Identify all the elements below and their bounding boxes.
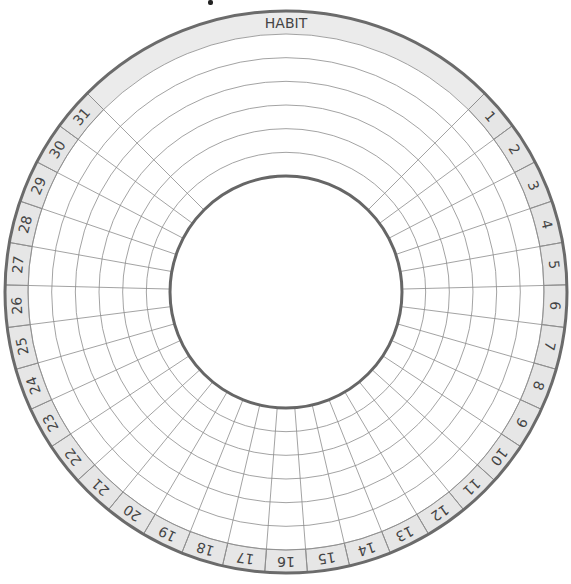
habit-cell[interactable] <box>425 288 450 313</box>
day-label: 17 <box>235 549 255 568</box>
habit-title: HABIT <box>265 15 308 31</box>
habit-cell[interactable] <box>447 259 473 288</box>
habit-cell[interactable] <box>75 255 102 287</box>
habit-cell[interactable] <box>28 246 55 286</box>
habit-cell[interactable] <box>146 288 171 309</box>
habit-cell[interactable] <box>123 263 149 288</box>
habit-cell[interactable] <box>401 288 426 309</box>
habit-cell[interactable] <box>275 408 296 432</box>
habit-cell[interactable] <box>266 526 305 550</box>
habit-cell[interactable] <box>99 259 125 288</box>
habit-cell[interactable] <box>274 431 299 455</box>
habit-cell[interactable] <box>272 455 300 479</box>
habit-cell[interactable] <box>244 451 274 478</box>
habit-cell[interactable] <box>493 251 520 287</box>
habit-cell[interactable] <box>472 287 497 319</box>
inner-ring <box>170 176 402 408</box>
habit-cell[interactable] <box>268 502 304 526</box>
habit-cell[interactable] <box>238 474 271 502</box>
habit-cell[interactable] <box>99 287 124 315</box>
habit-cell[interactable] <box>448 287 473 315</box>
day-label: 5 <box>546 259 563 269</box>
habit-cell[interactable] <box>28 285 54 324</box>
habit-cell[interactable] <box>270 478 302 502</box>
habit-cell[interactable] <box>518 285 544 324</box>
habit-cell[interactable] <box>52 286 77 322</box>
habit-cell[interactable] <box>52 251 79 287</box>
day-label: 26 <box>8 296 25 315</box>
habit-cell[interactable] <box>470 255 497 287</box>
habit-cell[interactable] <box>75 287 100 319</box>
day-label: 15 <box>317 549 337 568</box>
habit-cell[interactable] <box>517 246 544 286</box>
habit-tracker-wheel: 1234567891011121314151617181920212223242… <box>0 0 571 584</box>
habit-cell[interactable] <box>495 286 520 322</box>
habit-cell[interactable] <box>123 288 148 313</box>
day-label: 6 <box>547 301 563 311</box>
habit-cell[interactable] <box>298 451 328 478</box>
day-label: 16 <box>277 554 295 570</box>
day-label: 27 <box>9 255 27 274</box>
habit-cell[interactable] <box>423 263 449 288</box>
habit-cell[interactable] <box>300 474 333 502</box>
